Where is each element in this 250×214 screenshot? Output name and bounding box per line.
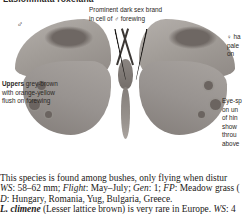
- annotation-uppers: Uppers grey-brown with orange-yellow flu…: [2, 80, 60, 106]
- annotation-eyespot-line1: Eye-sp: [222, 97, 250, 106]
- description-line-related-species: L. climene (Lesser lattice brown) is ver…: [0, 204, 250, 214]
- label-distribution: D: [0, 194, 7, 204]
- annotation-sex-brand-line1: Prominent dark sex brand: [89, 6, 201, 15]
- annotation-eyespot-line3: of hin: [222, 114, 250, 123]
- description-line-habits: This species is found among bushes, only…: [0, 173, 250, 183]
- hindwing-right: [139, 61, 227, 135]
- annotation-female-line1: ♀ ha: [227, 33, 250, 42]
- label-wingspan-related: WS: [213, 204, 226, 214]
- annotation-eyespot-line6: above: [222, 140, 250, 149]
- annotation-sex-brand: Prominent dark sex brand in cell of ♂ fo…: [89, 6, 201, 23]
- annotation-eyespot-line5: throu: [222, 131, 250, 140]
- eyespot: [45, 111, 52, 118]
- description-line-distribution: D: Hungary, Romania, Yug, Bulgaria, Gree…: [0, 194, 250, 204]
- abdomen: [121, 87, 130, 139]
- eyespot: [210, 99, 221, 110]
- annotation-eyespot: Eye-sp on un of hin show throu above: [222, 97, 250, 149]
- value-distribution: : Hungary, Romania, Yug, Bulgaria, Greec…: [7, 194, 173, 204]
- value-wingspan: : 58–62 mm;: [13, 183, 63, 193]
- annotation-sex-brand-line2: in cell of ♂ forewing: [89, 15, 201, 24]
- annotation-female-line2: pale: [227, 42, 250, 51]
- related-species-common-name: (Lesser lattice brown) is very rare in E…: [41, 204, 214, 214]
- related-species-name: L. climene: [0, 204, 41, 214]
- value-wingspan-related: : 4: [226, 204, 236, 214]
- annotation-eyespot-line4: show: [222, 123, 250, 132]
- label-flight: Flight: [63, 183, 86, 193]
- annotation-female: ♀ ha pale on: [227, 33, 250, 59]
- thorax: [118, 59, 133, 89]
- label-wingspan: WS: [0, 183, 13, 193]
- eyespot: [204, 81, 213, 90]
- annotation-female-line3: on: [227, 50, 250, 59]
- specimen-plate: ♂ Prominent dark sex brand in cell of ♂ …: [0, 0, 250, 176]
- annotation-eyespot-line2: on un: [222, 106, 250, 115]
- value-foodplant: : Meadow grass (: [175, 183, 240, 193]
- description-line-measurements: WS: 58–62 mm; Flight: May–July; Gen: 1; …: [0, 183, 250, 193]
- eyespot: [198, 111, 205, 118]
- value-generations: : 1;: [149, 183, 164, 193]
- label-foodplant: FP: [163, 183, 174, 193]
- label-generations: Gen: [133, 183, 149, 193]
- annotation-uppers-label: Uppers: [2, 80, 24, 87]
- value-flight: : May–July;: [86, 183, 133, 193]
- species-description-text: This species is found among bushes, only…: [0, 173, 250, 214]
